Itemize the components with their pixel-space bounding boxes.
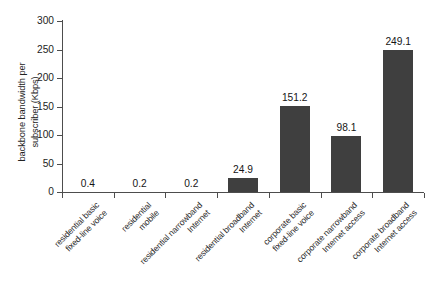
y-tick-300 — [57, 21, 62, 22]
bar-value-label: 151.2 — [265, 93, 325, 103]
x-axis-line — [62, 192, 424, 193]
x-tick-1 — [114, 193, 115, 198]
y-tick-150 — [57, 107, 62, 108]
x-tick-0 — [62, 193, 63, 198]
bar-value-label: 98.1 — [316, 123, 376, 133]
y-tick-label-100: 100 — [12, 130, 54, 140]
bar-value-label: 24.9 — [213, 165, 273, 175]
x-tick-2 — [165, 193, 166, 198]
bar-chart: backbone bandwidth per subscriber (Kbps)… — [0, 0, 437, 293]
y-tick-250 — [57, 50, 62, 51]
x-tick-5 — [321, 193, 322, 198]
x-tick-7 — [424, 193, 425, 198]
y-axis-line — [62, 20, 63, 193]
y-tick-label-300: 300 — [12, 16, 54, 26]
y-tick-50 — [57, 164, 62, 165]
x-tick-6 — [372, 193, 373, 198]
x-tick-4 — [269, 193, 270, 198]
bar — [280, 106, 310, 192]
bar — [383, 50, 413, 192]
bar-value-label: 0.2 — [161, 179, 221, 189]
x-tick-3 — [217, 193, 218, 198]
y-tick-label-150: 150 — [12, 102, 54, 112]
bar — [228, 178, 258, 192]
y-tick-label-250: 250 — [12, 45, 54, 55]
y-tick-label-200: 200 — [12, 73, 54, 83]
bar — [331, 136, 361, 192]
bar-value-label: 249.1 — [368, 37, 428, 47]
y-tick-100 — [57, 135, 62, 136]
y-tick-label-0: 0 — [12, 187, 54, 197]
y-tick-200 — [57, 78, 62, 79]
y-tick-label-50: 50 — [12, 159, 54, 169]
